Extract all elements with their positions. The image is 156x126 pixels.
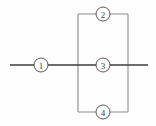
schematic-svg: 1 2 3 4	[0, 0, 156, 126]
callout-label-2: 2	[101, 10, 106, 20]
callout-label-1: 1	[39, 61, 44, 71]
callout-marker-3[interactable]: 3	[96, 58, 110, 72]
callout-label-3: 3	[101, 61, 106, 71]
callout-marker-2[interactable]: 2	[96, 7, 110, 21]
callout-marker-4[interactable]: 4	[96, 105, 110, 119]
callout-marker-1[interactable]: 1	[34, 58, 48, 72]
diagram-canvas: 1 2 3 4	[0, 0, 156, 126]
callout-label-4: 4	[101, 108, 106, 118]
